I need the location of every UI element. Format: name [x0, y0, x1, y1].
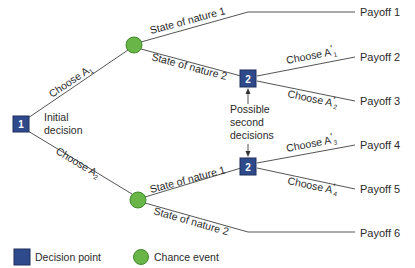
edge-choose-a1 [28, 50, 128, 118]
payoff-6: Payoff 6 [360, 227, 400, 239]
svg-text:2: 2 [245, 74, 251, 85]
possible-second-decisions-annotation: Possible second decisions [230, 103, 274, 141]
decision-node-second-bottom: 2 [240, 158, 256, 175]
decision-node-initial: 1 [13, 116, 29, 132]
payoff-5: Payoff 5 [360, 183, 400, 195]
label-state2-bottom: State of nature 2 [152, 204, 230, 237]
payoffs: Payoff 1 Payoff 2 Payoff 3 Payoff 4 Payo… [360, 6, 400, 239]
label-state1-top: State of nature 1 [148, 4, 226, 36]
legend-chance-swatch [134, 250, 149, 265]
label-state1-bottom: State of nature 1 [148, 163, 226, 195]
tree-edges [28, 12, 355, 232]
chance-node-bottom [130, 192, 146, 208]
label-state2-top: State of nature 2 [150, 50, 228, 82]
arrow-down-icon [246, 151, 251, 157]
payoff-4: Payoff 4 [360, 139, 400, 151]
svg-text:decisions: decisions [230, 129, 274, 141]
legend-chance-label: Chance event [154, 251, 219, 263]
legend-decision-label: Decision point [35, 251, 101, 263]
arrow-up-icon [246, 88, 251, 94]
label-choose-a1p: Choose A'1 [285, 41, 339, 67]
legend-decision-swatch [14, 249, 30, 265]
chance-node-top [126, 37, 142, 53]
label-choose-a2p: Choose A'2 [286, 84, 340, 110]
label-choose-a4p: Choose A'4 [286, 171, 340, 197]
node-label: 1 [18, 119, 24, 130]
label-choose-a1: Choose A1 [46, 62, 94, 100]
initial-decision-caption-2: decision [44, 124, 83, 136]
decision-tree-diagram: 1 Initial decision 2 2 Choose A1 Choose … [0, 0, 415, 268]
label-choose-a2: Choose A2 [53, 144, 102, 181]
svg-text:second: second [230, 116, 264, 128]
svg-text:2: 2 [245, 162, 251, 173]
label-choose-a3p: Choose A'3 [285, 129, 339, 155]
payoff-3: Payoff 3 [360, 95, 400, 107]
payoff-2: Payoff 2 [360, 51, 400, 63]
initial-decision-caption-1: Initial [44, 111, 69, 123]
decision-node-second-top: 2 [240, 70, 256, 87]
svg-text:Possible: Possible [230, 103, 270, 115]
legend: Decision point Chance event [14, 249, 219, 265]
payoff-1: Payoff 1 [360, 6, 400, 18]
